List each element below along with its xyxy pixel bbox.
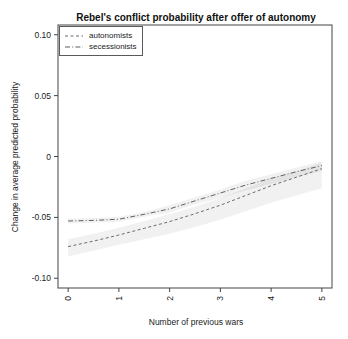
- secessionists-line-icon: [64, 43, 84, 51]
- legend-label-secessionists: secessionists: [89, 41, 137, 52]
- legend-item-autonomists: autonomists: [64, 30, 137, 41]
- plot-area: 0123450.100.050-0.05-0.10: [0, 0, 348, 339]
- y-tick-label: -0.10: [32, 273, 52, 283]
- y-tick-label: 0.05: [34, 91, 51, 101]
- x-tick-label: 2: [165, 296, 175, 301]
- x-tick-label: 3: [215, 296, 225, 301]
- x-tick-label: 0: [63, 296, 73, 301]
- chart-figure: Rebel's conflict probability after offer…: [0, 0, 348, 339]
- legend-label-autonomists: autonomists: [89, 30, 132, 41]
- y-tick-label: 0.10: [34, 30, 51, 40]
- x-tick-label: 1: [114, 296, 124, 301]
- legend-item-secessionists: secessionists: [64, 41, 137, 52]
- y-tick-label: 0: [46, 152, 51, 162]
- autonomists-line-icon: [64, 32, 84, 40]
- x-tick-label: 4: [266, 296, 276, 301]
- x-tick-label: 5: [317, 296, 327, 301]
- legend: autonomists secessionists: [59, 26, 143, 56]
- y-tick-label: -0.05: [32, 212, 52, 222]
